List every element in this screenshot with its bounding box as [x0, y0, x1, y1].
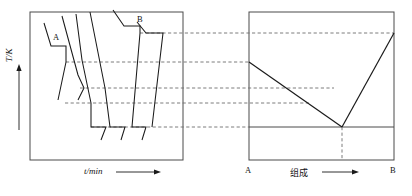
composition-endpoint-b: B: [390, 165, 396, 175]
right-panel-frame: [249, 12, 394, 160]
x-axis-arrowhead: [154, 169, 161, 174]
left-y-axis-label: T/K: [4, 48, 14, 62]
left-x-axis-label: t/min: [84, 166, 103, 176]
phase-diagram-figure: T/K t/min 组成 A B A B: [0, 0, 412, 196]
figure-canvas: [0, 0, 412, 196]
curve-label-b: B: [137, 14, 143, 24]
right-axis-arrow: [322, 169, 359, 174]
curve-label-a: A: [53, 32, 59, 42]
composition-arrowhead: [352, 169, 359, 174]
composition-endpoint-a: A: [245, 165, 251, 175]
right-x-axis-label: 组成: [290, 166, 308, 179]
y-axis-arrowhead: [16, 64, 21, 71]
